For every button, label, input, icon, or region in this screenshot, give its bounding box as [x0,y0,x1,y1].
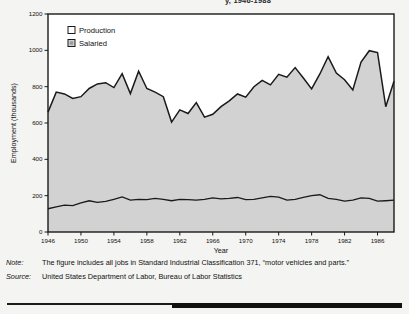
figure-container: y, 1946-1988 020040060080010001200 19461… [0,0,409,314]
x-tick-label: 1962 [173,237,187,244]
employment-area-chart: 020040060080010001200 194619501954195819… [0,6,409,254]
y-tick-label: 1200 [29,10,43,17]
legend-swatch-inner [70,41,73,44]
x-tick-label: 1946 [41,237,55,244]
y-tick-label: 200 [32,192,43,199]
note-row: Note: The figure includes all jobs in St… [0,258,409,268]
footer-rule-thick [172,303,402,308]
chart-plot-area: 020040060080010001200 194619501954195819… [0,6,409,254]
y-tick-label: 600 [32,119,43,126]
x-axis-label: Year [214,246,229,254]
x-tick-label: 1958 [140,237,154,244]
legend-swatch-inner [70,28,73,31]
note-label: Note: [6,258,42,268]
x-tick-label: 1978 [305,237,319,244]
x-tick-label: 1986 [371,237,385,244]
clipped-figure-header: y, 1946-1988 [225,0,395,5]
x-tick-label: 1954 [107,237,121,244]
y-tick-label: 0 [39,228,43,235]
y-tick-label: 400 [32,155,43,162]
source-row: Source: United States Department of Labo… [0,272,409,282]
x-tick-label: 1950 [74,237,88,244]
x-tick-label: 1974 [272,237,286,244]
x-tick-label: 1982 [338,237,352,244]
legend-label: Production [79,26,115,35]
legend-label: Salaried [79,39,107,48]
y-tick-label: 800 [32,83,43,90]
source-text: United States Department of Labor, Burea… [42,272,403,282]
y-tick-label: 1000 [29,46,43,53]
x-tick-label: 1970 [239,237,253,244]
note-text: The figure includes all jobs in Standard… [42,258,403,268]
source-label: Source: [6,272,42,282]
x-tick-label: 1966 [206,237,220,244]
y-axis-label: Employment (thousands) [9,83,18,163]
figure-notes: Note: The figure includes all jobs in St… [0,258,409,283]
